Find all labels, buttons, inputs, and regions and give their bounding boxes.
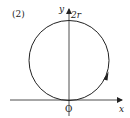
figure-label: (2) (12, 9, 25, 19)
y-axis-label: y (58, 4, 65, 14)
y-tick-label-2r: 2r (70, 10, 82, 20)
direction-arrow-icon (104, 72, 109, 81)
x-axis-label: x (119, 104, 124, 114)
diagram-canvas: (2) y 2r O x (0, 0, 130, 118)
origin-label: O (65, 104, 72, 114)
